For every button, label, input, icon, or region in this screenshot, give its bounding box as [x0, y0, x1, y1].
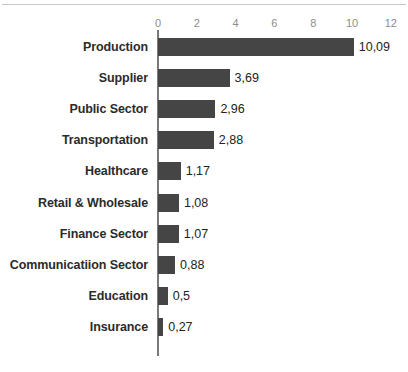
bar-row: Production10,09 — [0, 38, 408, 56]
bar-row: Transportation2,88 — [0, 131, 408, 149]
bar-row: Supplier3,69 — [0, 69, 408, 87]
bar-row: Insurance0,27 — [0, 318, 408, 336]
category-label: Retail & Wholesale — [7, 194, 157, 212]
bar-value-label: 0,5 — [168, 287, 190, 305]
bar-row: Education0,5 — [0, 287, 408, 305]
bar-row: Healthcare1,17 — [0, 162, 408, 180]
bar[interactable] — [158, 131, 214, 149]
bar[interactable] — [158, 38, 354, 56]
category-label: Insurance — [7, 318, 157, 336]
bar[interactable] — [158, 287, 168, 305]
bar[interactable] — [158, 69, 230, 87]
bar-value-label: 1,17 — [181, 162, 210, 180]
bar[interactable] — [158, 225, 179, 243]
category-label: Communicatiion Sector — [7, 256, 157, 274]
bar-value-label: 10,09 — [354, 38, 390, 56]
bar[interactable] — [158, 194, 179, 212]
bar-row: Retail & Wholesale1,08 — [0, 194, 408, 212]
bar-value-label: 1,08 — [179, 194, 208, 212]
category-label: Finance Sector — [7, 225, 157, 243]
category-label: Transportation — [7, 131, 157, 149]
bar[interactable] — [158, 256, 175, 274]
category-label: Healthcare — [7, 162, 157, 180]
bar-row: Finance Sector1,07 — [0, 225, 408, 243]
bar-chart-figure: 024681012 Production10,09Supplier3,69Pub… — [0, 0, 408, 372]
bar-value-label: 0,27 — [163, 318, 192, 336]
bar[interactable] — [158, 162, 181, 180]
category-label: Education — [7, 287, 157, 305]
bar-value-label: 2,88 — [214, 131, 243, 149]
bar-value-label: 2,96 — [215, 100, 244, 118]
bar-row: Public Sector2,96 — [0, 100, 408, 118]
bar[interactable] — [158, 100, 215, 118]
bar-row: Communicatiion Sector0,88 — [0, 256, 408, 274]
bar-value-label: 3,69 — [230, 69, 259, 87]
bar-rows-container: Production10,09Supplier3,69Public Sector… — [0, 0, 408, 372]
bar-value-label: 1,07 — [179, 225, 208, 243]
category-label: Supplier — [7, 69, 157, 87]
category-label: Public Sector — [7, 100, 157, 118]
bar-value-label: 0,88 — [175, 256, 204, 274]
category-label: Production — [7, 38, 157, 56]
